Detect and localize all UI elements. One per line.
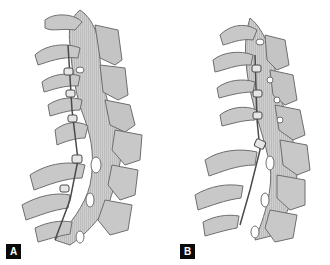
cervical-spine-illustration-b: [165, 0, 330, 265]
panel-a: A: [0, 0, 165, 265]
implant-spacer: [64, 68, 73, 75]
panel-label-b: B: [180, 244, 195, 259]
implant-spacer: [72, 155, 82, 163]
implant-spacer: [252, 65, 261, 72]
cervical-spine-illustration-a: [0, 0, 165, 265]
panel-label-a: A: [6, 244, 21, 259]
implant-spacer: [60, 185, 69, 192]
panel-b: B: [165, 0, 330, 265]
implant-spacer: [68, 115, 77, 122]
implant-spacer: [66, 90, 75, 97]
implant-spacer: [253, 90, 262, 97]
implant-spacer: [253, 112, 262, 119]
